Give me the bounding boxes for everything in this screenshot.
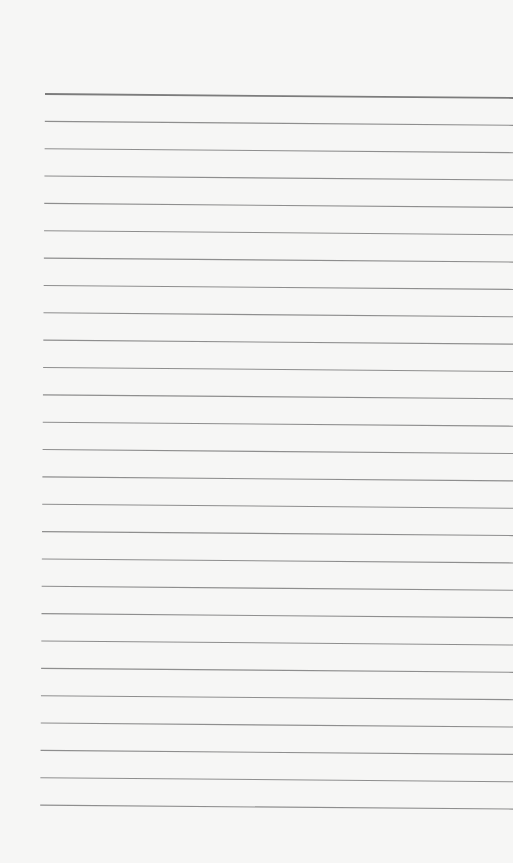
rule-line [44, 313, 513, 317]
rule-line [45, 121, 513, 125]
rule-line [44, 258, 513, 262]
rule-line [43, 422, 513, 426]
rule-line [44, 231, 513, 235]
ruled-lines [0, 0, 513, 863]
rule-line [45, 149, 513, 153]
rule-line [43, 368, 513, 372]
rule-line [42, 504, 513, 508]
rule-line [42, 559, 513, 563]
rule-line [43, 450, 513, 454]
lined-paper-page [0, 0, 513, 863]
rule-line [42, 586, 513, 590]
rule-line [43, 395, 513, 399]
header-rule-line [45, 94, 513, 98]
rule-line [41, 668, 513, 672]
rule-line [40, 805, 513, 809]
rule-line [44, 203, 513, 207]
rule-line [42, 477, 513, 481]
rule-line [41, 750, 513, 754]
rule-line [44, 285, 513, 289]
rule-line [41, 641, 513, 645]
rule-line [41, 723, 513, 727]
rule-line [41, 614, 513, 618]
rule-line [40, 778, 513, 782]
rule-line [43, 340, 513, 344]
rule-line [41, 696, 513, 700]
rule-line [44, 176, 513, 180]
rule-line [42, 532, 513, 536]
